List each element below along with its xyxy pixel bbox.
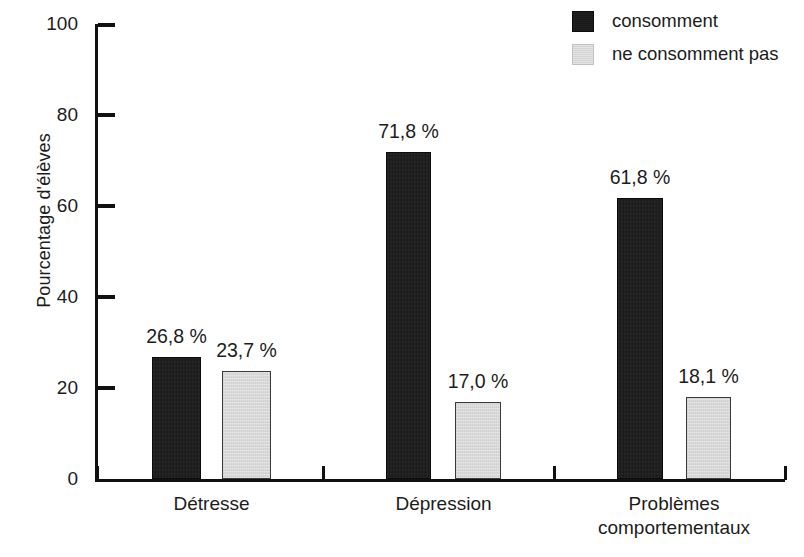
legend-swatch-light-icon (572, 44, 594, 65)
value-label-ne-consomment-pas-2: 18,1 % (659, 367, 759, 387)
y-tick-20 (98, 386, 115, 390)
y-tick-100 (98, 23, 115, 27)
y-axis-label: Pourcentage d'élèves (34, 91, 55, 351)
category-label-1: Dépression (334, 492, 554, 516)
x-tick-2 (553, 466, 556, 480)
bar-ne-consomment-pas-2 (686, 397, 731, 479)
y-tick-label-60: 60 (20, 196, 78, 215)
bar-consomment-2 (617, 198, 663, 479)
y-tick-60 (98, 204, 115, 208)
legend: consomment ne consomment pas (572, 8, 804, 74)
bar-ne-consomment-pas-1 (455, 402, 501, 479)
x-axis-line (95, 479, 785, 482)
legend-label-ne-consomment-pas: ne consomment pas (612, 45, 779, 64)
value-label-consomment-2: 61,8 % (590, 168, 690, 188)
bar-consomment-1 (386, 152, 431, 479)
y-tick-label-100: 100 (20, 14, 78, 33)
x-tick-0 (96, 466, 99, 480)
category-label-0: Détresse (102, 492, 322, 516)
value-label-consomment-1: 71,8 % (359, 122, 459, 142)
y-tick-80 (98, 113, 115, 117)
category-label-line2-2: comportementaux (564, 516, 784, 540)
category-label-2: Problèmescomportementaux (564, 492, 784, 540)
value-label-ne-consomment-pas-1: 17,0 % (428, 372, 528, 392)
value-label-ne-consomment-pas-0: 23,7 % (197, 341, 297, 361)
bar-consomment-0 (152, 357, 201, 479)
x-tick-3 (784, 466, 787, 480)
category-label-line1-0: Détresse (102, 492, 322, 516)
y-tick-label-0: 0 (20, 469, 78, 488)
bar-chart: Pourcentage d'élèves 020406080100 26,8 %… (0, 0, 804, 557)
legend-item-ne-consomment-pas: ne consomment pas (572, 41, 804, 68)
legend-label-consomment: consomment (612, 12, 718, 31)
y-tick-label-40: 40 (20, 287, 78, 306)
legend-swatch-dark-icon (572, 11, 594, 32)
y-tick-40 (98, 295, 115, 299)
legend-item-consomment: consomment (572, 8, 804, 35)
category-label-line1-1: Dépression (334, 492, 554, 516)
bar-ne-consomment-pas-0 (222, 371, 271, 479)
x-tick-1 (322, 466, 325, 480)
y-axis-line (95, 24, 98, 482)
category-label-line1-2: Problèmes (564, 492, 784, 516)
y-tick-label-80: 80 (20, 105, 78, 124)
y-tick-label-20: 20 (20, 378, 78, 397)
